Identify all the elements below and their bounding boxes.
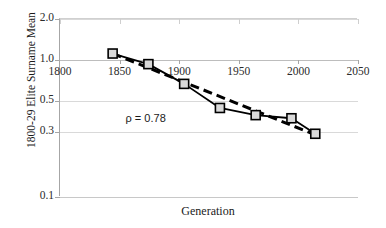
- y-tick-label-2.0: 2.0: [40, 12, 54, 24]
- x-tick-1900: [179, 60, 180, 64]
- x-tick-top-1900: [179, 19, 180, 24]
- x-axis-title: Generation: [59, 204, 357, 219]
- gridline-y-0.1: [60, 197, 358, 198]
- x-tick-1850: [120, 60, 121, 64]
- x-tick-2050: [358, 60, 359, 64]
- y-axis-tick-labels: 2.01.00.50.30.1: [0, 0, 54, 228]
- plot-area: 180018501900195020002050 ρ = 0.78: [59, 18, 357, 196]
- x-tick-label-1950: 1950: [227, 66, 250, 78]
- y-tick-1.0: [55, 60, 60, 61]
- gridline-y-0.3: [60, 132, 358, 133]
- y-tick-label-1.0: 1.0: [40, 53, 54, 65]
- x-tick-label-1800: 1800: [49, 66, 72, 78]
- chart-figure: 1800-29 Elite Surname Mean 2.01.00.50.30…: [0, 0, 386, 228]
- x-tick-top-2050: [358, 19, 359, 24]
- x-tick-1950: [239, 60, 240, 64]
- y-tick-label-0.5: 0.5: [40, 94, 54, 106]
- y-tick-label-0.1: 0.1: [40, 190, 54, 202]
- rho-annotation: ρ = 0.78: [126, 112, 166, 124]
- y-tick-0.5: [55, 101, 60, 102]
- gridline-y-1.0: [60, 60, 358, 61]
- x-tick-2000: [298, 60, 299, 64]
- y-tick-0.1: [55, 197, 60, 198]
- x-tick-label-1850: 1850: [108, 66, 131, 78]
- gridline-y-2.0: [60, 19, 358, 20]
- x-tick-label-2050: 2050: [347, 66, 370, 78]
- x-tick-top-1800: [60, 19, 61, 24]
- x-tick-label-2000: 2000: [287, 66, 310, 78]
- x-tick-top-1950: [239, 19, 240, 24]
- x-tick-top-1850: [120, 19, 121, 24]
- x-tick-label-1900: 1900: [168, 66, 191, 78]
- y-tick-0.3: [55, 132, 60, 133]
- gridline-y-0.5: [60, 101, 358, 102]
- x-tick-top-2000: [298, 19, 299, 24]
- y-tick-label-0.3: 0.3: [40, 125, 54, 137]
